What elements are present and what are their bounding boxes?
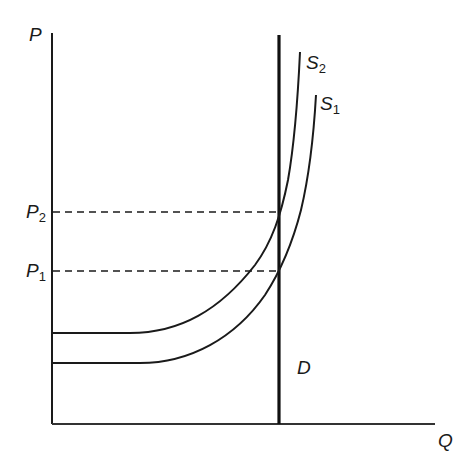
diagram-canvas <box>0 0 470 471</box>
supply-curve-s2 <box>52 52 300 333</box>
d-label: D <box>297 358 311 377</box>
p1-label: P1 <box>26 261 46 283</box>
s2-label: S2 <box>306 53 326 75</box>
p2-label: P2 <box>26 202 46 224</box>
x-axis-label: Q <box>438 431 453 450</box>
y-axis-label: P <box>29 25 42 44</box>
s1-label: S1 <box>320 94 340 116</box>
